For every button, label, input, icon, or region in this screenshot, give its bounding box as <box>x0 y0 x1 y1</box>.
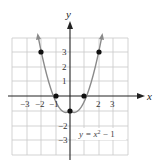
y-axis-arrow-icon <box>67 21 73 29</box>
y-tick-3: 3 <box>62 47 67 57</box>
point-2-3 <box>96 49 101 54</box>
equation-label: y = x2 − 1 <box>78 129 115 139</box>
point-neg2-3 <box>38 49 43 54</box>
equation-suffix: − 1 <box>101 129 115 139</box>
x-tick-labels: −3 −2 −1 2 3 <box>20 99 115 109</box>
equation-prefix: y = x <box>78 129 98 139</box>
y-axis-label: y <box>65 8 71 20</box>
x-tick-neg3: −3 <box>20 99 30 109</box>
y-tick-neg2: −2 <box>58 121 68 131</box>
point-0-neg1 <box>67 108 72 113</box>
x-tick-2: 2 <box>96 99 101 109</box>
x-tick-neg2: −2 <box>35 99 45 109</box>
curve-arrow-right-icon <box>99 33 104 40</box>
x-tick-3: 3 <box>110 99 115 109</box>
parabola-graph: y x −3 −2 −1 2 3 3 2 1 −2 −3 y = x2 − 1 <box>0 0 160 165</box>
curve-arrow-left-icon <box>36 33 41 40</box>
x-axis-arrow-icon <box>137 93 145 99</box>
x-tick-neg1: −1 <box>49 99 59 109</box>
point-neg1-0 <box>53 93 58 98</box>
y-tick-2: 2 <box>62 62 67 72</box>
y-tick-neg3: −3 <box>58 135 68 145</box>
point-1-0 <box>81 93 86 98</box>
x-axis-label: x <box>146 90 152 102</box>
y-tick-1: 1 <box>62 76 67 86</box>
